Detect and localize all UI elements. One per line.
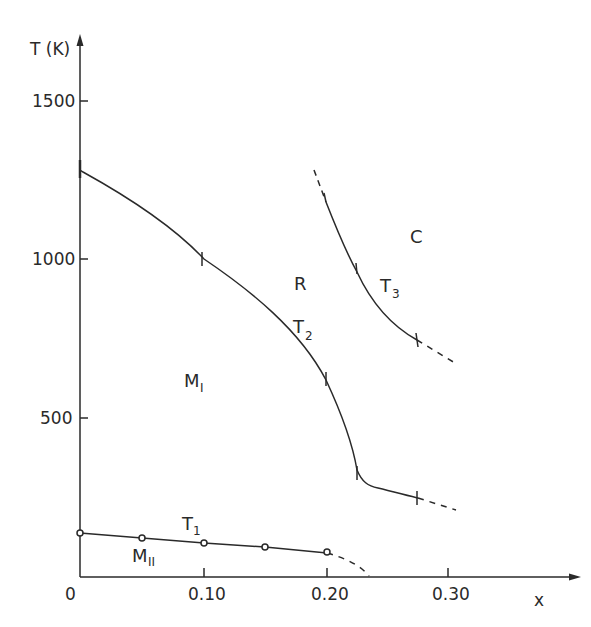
- t1-marker: [201, 540, 207, 546]
- x-tick-label-020: 0.20: [311, 584, 349, 604]
- t3-tick: [356, 263, 357, 274]
- x-tick-label-010: 0.10: [188, 584, 226, 604]
- region-label-mii: M II: [132, 545, 155, 569]
- x-tick-label-0: 0: [65, 584, 76, 604]
- y-tick-label-1000: 1000: [32, 249, 75, 269]
- curve-label-t2: T 2: [292, 316, 313, 343]
- t1-marker: [262, 544, 268, 550]
- region-label-c: C: [410, 226, 423, 247]
- x-axis-arrow-icon: [569, 574, 581, 581]
- t2-curve: [80, 170, 418, 498]
- region-label-r: R: [294, 273, 307, 294]
- svg-text:I: I: [200, 381, 204, 395]
- phase-diagram: T (K) x 1500 1000 500 0 0.10 0.20 0.30 C…: [0, 0, 591, 627]
- svg-text:2: 2: [305, 329, 313, 343]
- t3-curve: [326, 202, 417, 340]
- t3-tick: [416, 333, 418, 347]
- t1-marker: [77, 530, 83, 536]
- x-axis-label: x: [534, 590, 544, 610]
- y-tick-label-500: 500: [40, 408, 72, 428]
- t1-dashed-extension: [327, 553, 369, 576]
- svg-text:M: M: [132, 545, 148, 566]
- t2-dashed-extension: [418, 498, 456, 510]
- svg-text:T: T: [379, 275, 392, 296]
- x-tick-label-030: 0.30: [432, 584, 470, 604]
- t3-dashed-end: [417, 340, 455, 363]
- svg-text:M: M: [184, 370, 200, 391]
- t1-marker: [324, 549, 330, 555]
- svg-text:1: 1: [193, 524, 201, 538]
- t1-marker: [139, 535, 145, 541]
- t3-tick: [324, 193, 326, 202]
- y-axis-arrow-icon: [77, 34, 84, 46]
- y-tick-label-1500: 1500: [32, 91, 75, 111]
- svg-text:II: II: [148, 555, 155, 569]
- y-axis-label: T (K): [29, 39, 70, 59]
- svg-text:T: T: [292, 316, 305, 337]
- curve-label-t3: T 3: [379, 275, 400, 301]
- region-label-mi: M I: [184, 370, 204, 395]
- svg-text:3: 3: [392, 287, 400, 301]
- curve-label-t1: T 1: [181, 513, 201, 538]
